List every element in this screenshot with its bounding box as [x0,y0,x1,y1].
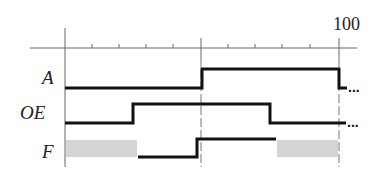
waveform-f [138,139,276,157]
timing-diagram: 100 A OE F ... ... [0,0,382,180]
signal-label-f: F [41,141,54,162]
continuation-oe: ... [347,114,359,130]
undefined-regions [66,140,338,157]
signal-label-oe: OE [20,102,46,123]
undefined-region [66,140,137,157]
waveform-a [65,69,347,88]
signal-label-a: A [40,67,54,88]
undefined-region [277,140,338,157]
waveform-oe [65,104,346,123]
continuation-a: ... [348,79,360,95]
axis-end-label: 100 [333,14,360,34]
